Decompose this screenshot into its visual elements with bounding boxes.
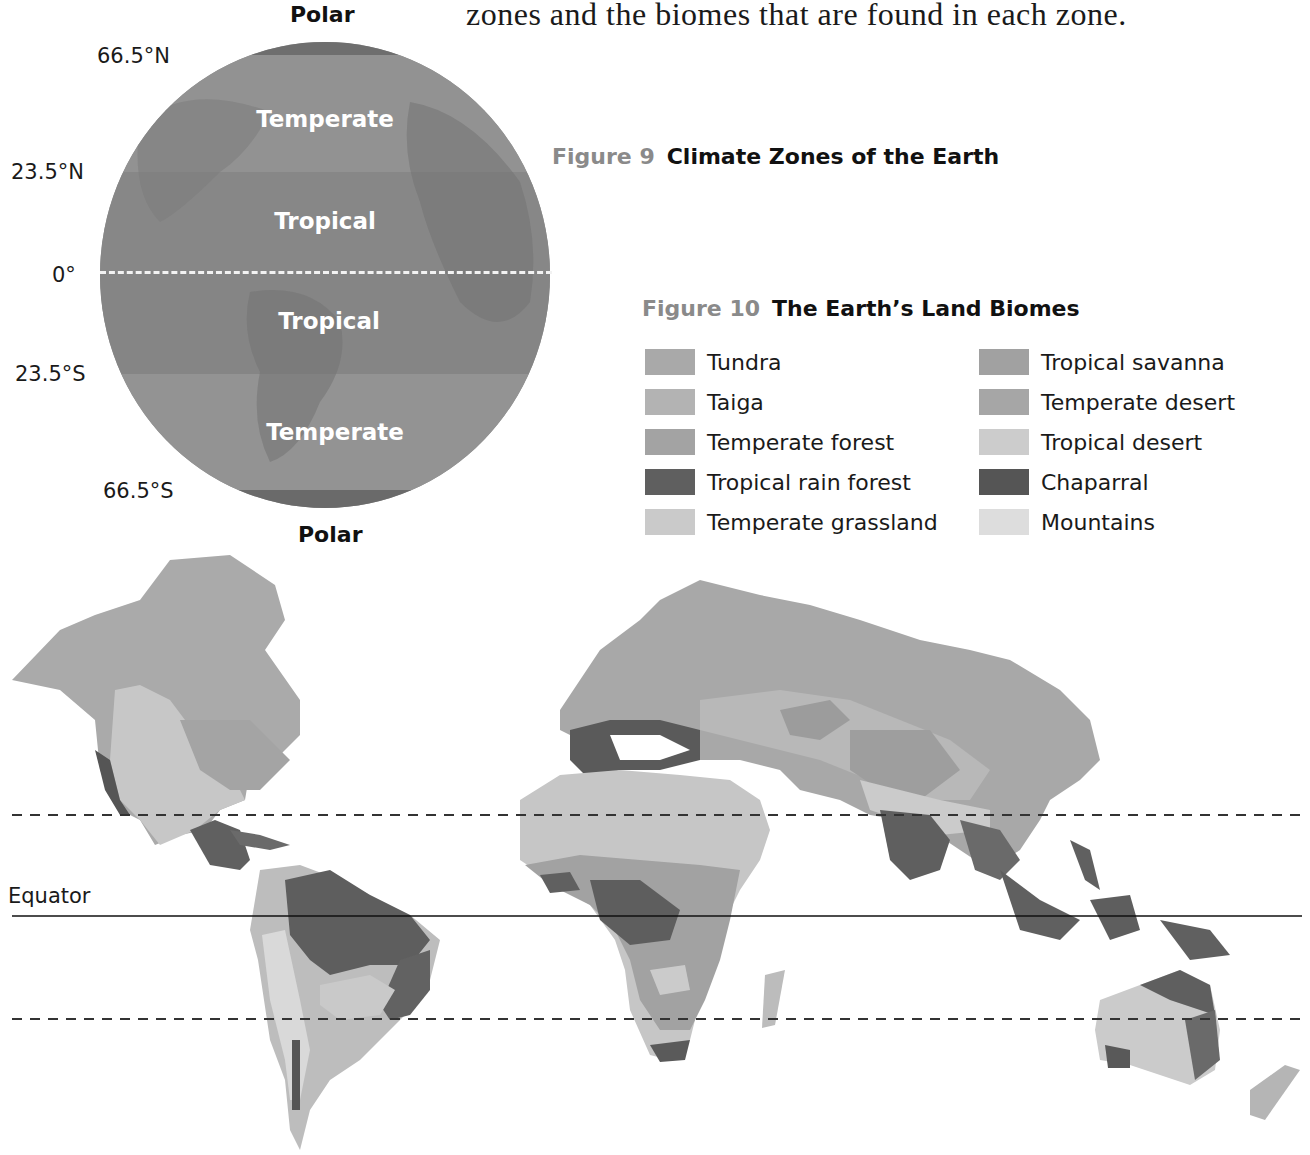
legend-item-temperate-grassland: Temperate grassland (645, 508, 938, 536)
swatch-temperate-desert (979, 389, 1029, 415)
legend-item-mountains: Mountains (979, 508, 1155, 536)
figure9-caption: Figure 9Climate Zones of the Earth (552, 144, 999, 169)
legend-label: Temperate desert (1041, 390, 1235, 415)
swatch-temperate-forest (645, 429, 695, 455)
swatch-chaparral (979, 469, 1029, 495)
legend-label: Tropical savanna (1041, 350, 1225, 375)
zone-label-temperate-south: Temperate (110, 419, 550, 445)
legend-label: Taiga (707, 390, 764, 415)
globe-equator-line (100, 271, 552, 274)
south-america (250, 865, 440, 1150)
swatch-tundra (645, 349, 695, 375)
zone-label-tropical-north: Tropical (100, 208, 550, 234)
legend-item-tropical-rain-forest: Tropical rain forest (645, 468, 911, 496)
swatch-taiga (645, 389, 695, 415)
legend-item-tropical-desert: Tropical desert (979, 428, 1202, 456)
legend-label: Mountains (1041, 510, 1155, 535)
legend-label: Temperate forest (707, 430, 894, 455)
australia (1095, 970, 1300, 1120)
figure9-title: Climate Zones of the Earth (667, 144, 1000, 169)
legend-item-temperate-desert: Temperate desert (979, 388, 1235, 416)
legend-label: Tropical rain forest (707, 470, 911, 495)
figure10-caption: Figure 10The Earth’s Land Biomes (642, 296, 1080, 321)
swatch-tropical-savanna (979, 349, 1029, 375)
legend-label: Tropical desert (1041, 430, 1202, 455)
world-biome-map (0, 550, 1310, 1155)
figure10-title: The Earth’s Land Biomes (772, 296, 1080, 321)
lat-23-5-n: 23.5°N (11, 160, 84, 184)
legend-item-tundra: Tundra (645, 348, 781, 376)
legend-item-taiga: Taiga (645, 388, 764, 416)
figure9-number: Figure 9 (552, 144, 655, 169)
legend-item-temperate-forest: Temperate forest (645, 428, 894, 456)
figure10-number: Figure 10 (642, 296, 760, 321)
lat-0: 0° (52, 263, 76, 287)
legend-item-chaparral: Chaparral (979, 468, 1149, 496)
legend-item-tropical-savanna: Tropical savanna (979, 348, 1225, 376)
north-america (12, 555, 300, 870)
swatch-tropical-desert (979, 429, 1029, 455)
swatch-temperate-grassland (645, 509, 695, 535)
zone-label-temperate-north: Temperate (100, 106, 550, 132)
lat-23-5-s: 23.5°S (15, 362, 86, 386)
swatch-mountains (979, 509, 1029, 535)
legend-label: Chaparral (1041, 470, 1149, 495)
intro-text: zones and the biomes that are found in e… (466, 0, 1127, 33)
southeast-asia (1000, 840, 1230, 960)
equator-label: Equator (8, 884, 91, 908)
climate-zones-globe: Temperate Tropical Tropical Temperate (100, 42, 550, 508)
legend-label: Tundra (707, 350, 781, 375)
polar-south-label: Polar (298, 522, 362, 547)
polar-north-label: Polar (290, 2, 354, 27)
swatch-tropical-rain-forest (645, 469, 695, 495)
legend-label: Temperate grassland (707, 510, 938, 535)
zone-label-tropical-south: Tropical (104, 308, 550, 334)
